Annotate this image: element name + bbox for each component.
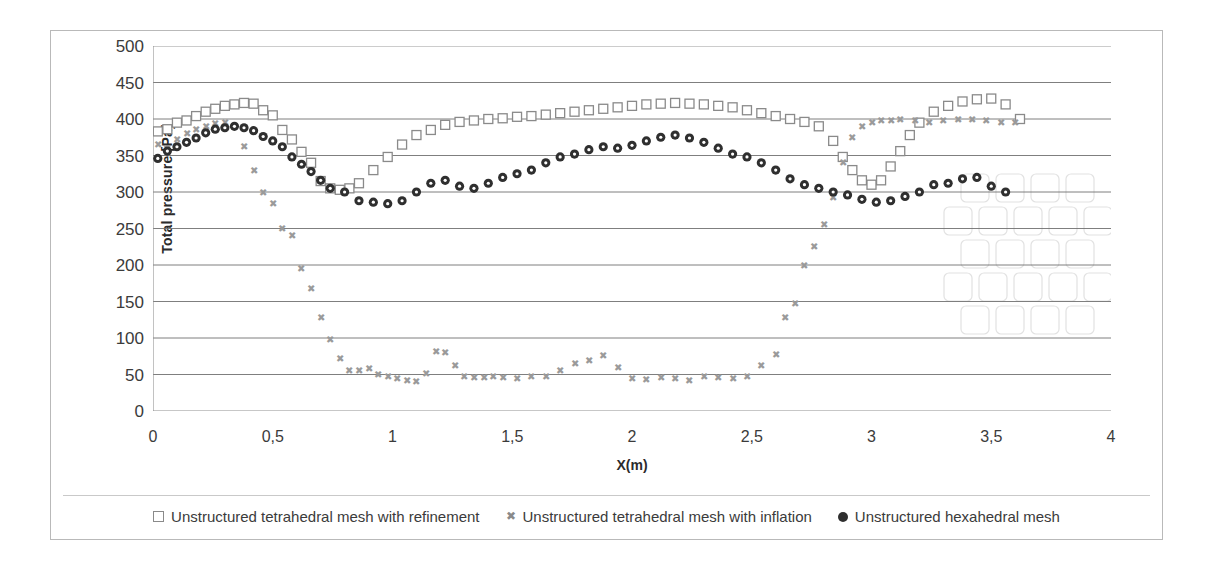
svg-text:✖: ✖ [513,373,521,384]
svg-text:✖: ✖ [968,114,976,125]
svg-text:✖: ✖ [489,371,497,382]
svg-text:✖: ✖ [729,373,737,384]
svg-text:✖: ✖ [800,260,808,271]
x-tick-label: 1 [363,428,423,446]
svg-text:✖: ✖ [412,376,420,387]
legend-item-hexahedral[interactable]: Unstructured hexahedral mesh [838,508,1060,525]
svg-text:✖: ✖ [336,353,344,364]
plot-area: Total pressure [Pa] X(m) ✖✖✖✖✖✖✖✖✖✖✖✖✖✖✖… [153,46,1111,411]
svg-text:✖: ✖ [317,312,325,323]
x-tick-label: 0 [123,428,183,446]
y-tick-label: 250 [84,220,144,237]
svg-text:✖: ✖ [714,372,722,383]
chart-figure-frame: Total pressure [Pa] X(m) ✖✖✖✖✖✖✖✖✖✖✖✖✖✖✖… [50,30,1163,540]
svg-text:✖: ✖ [470,372,478,383]
svg-text:✖: ✖ [240,141,248,152]
svg-text:✖: ✖ [810,241,818,252]
svg-text:✖: ✖ [858,121,866,132]
svg-text:✖: ✖ [192,124,200,135]
svg-text:✖: ✖ [527,371,535,382]
svg-text:✖: ✖ [441,347,449,358]
chart-legend: Unstructured tetrahedral mesh with refin… [63,495,1150,525]
svg-text:✖: ✖ [657,372,665,383]
svg-text:✖: ✖ [839,157,847,168]
svg-text:✖: ✖ [326,334,334,345]
y-tick-label: 400 [84,111,144,128]
x-tick-label: 2 [602,428,662,446]
svg-text:✖: ✖ [403,375,411,386]
y-tick-label: 450 [84,74,144,91]
svg-text:✖: ✖ [685,375,693,386]
svg-text:✖: ✖ [432,346,440,357]
svg-text:✖: ✖ [757,360,765,371]
y-tick-label: 300 [84,184,144,201]
svg-text:✖: ✖ [480,372,488,383]
svg-text:✖: ✖ [781,312,789,323]
svg-text:✖: ✖ [269,198,277,209]
legend-item-inflation[interactable]: ✖ Unstructured tetrahedral mesh with inf… [506,508,812,525]
svg-text:✖: ✖ [599,350,607,361]
svg-text:✖: ✖ [954,114,962,125]
open-square-icon [153,511,164,522]
svg-text:✖: ✖ [911,115,919,126]
svg-text:✖: ✖ [556,365,564,376]
svg-text:✖: ✖ [671,373,679,384]
svg-text:✖: ✖ [791,298,799,309]
x-tick-label: 4 [1081,428,1141,446]
svg-text:✖: ✖ [183,128,191,139]
svg-text:✖: ✖ [820,219,828,230]
svg-text:✖: ✖ [1011,117,1019,128]
svg-text:✖: ✖ [700,371,708,382]
svg-text:✖: ✖ [542,371,550,382]
x-tick-label: 3,5 [961,428,1021,446]
series-1: ✖✖✖✖✖✖✖✖✖✖✖✖✖✖✖✖✖✖✖✖✖✖✖✖✖✖✖✖✖✖✖✖✖✖✖✖✖✖✖✖… [154,114,1019,388]
svg-text:✖: ✖ [297,263,305,274]
svg-text:✖: ✖ [614,362,622,373]
svg-text:✖: ✖ [250,165,258,176]
x-tick-label: 3 [842,428,902,446]
svg-text:✖: ✖ [365,363,373,374]
svg-text:✖: ✖ [278,223,286,234]
svg-text:✖: ✖ [743,371,751,382]
svg-text:✖: ✖ [772,349,780,360]
svg-text:✖: ✖ [925,117,933,128]
svg-text:✖: ✖ [307,283,315,294]
svg-text:✖: ✖ [571,358,579,369]
svg-text:✖: ✖ [982,115,990,126]
mesh-grid-watermark [944,174,1111,334]
svg-text:✖: ✖ [585,355,593,366]
legend-label-inflation: Unstructured tetrahedral mesh with infla… [523,508,812,525]
svg-text:✖: ✖ [868,117,876,128]
svg-text:✖: ✖ [642,374,650,385]
x-tick-label: 0,5 [243,428,303,446]
svg-text:✖: ✖ [848,132,856,143]
legend-label-refinement: Unstructured tetrahedral mesh with refin… [171,508,479,525]
svg-text:✖: ✖ [896,114,904,125]
x-axis-title: X(m) [153,457,1111,473]
svg-text:✖: ✖ [288,230,296,241]
svg-text:✖: ✖ [384,371,392,382]
y-tick-label: 50 [84,366,144,383]
x-tick-label: 2,5 [722,428,782,446]
svg-text:✖: ✖ [154,139,162,150]
svg-text:✖: ✖ [355,365,363,376]
y-tick-label: 0 [84,403,144,420]
svg-text:✖: ✖ [259,187,267,198]
svg-text:✖: ✖ [887,115,895,126]
svg-text:✖: ✖ [451,360,459,371]
svg-text:✖: ✖ [877,115,885,126]
legend-item-refinement[interactable]: Unstructured tetrahedral mesh with refin… [153,508,479,525]
svg-text:✖: ✖ [460,371,468,382]
svg-text:✖: ✖ [422,368,430,379]
x-tick-label: 1,5 [482,428,542,446]
filled-circle-icon [838,512,848,522]
svg-text:✖: ✖ [393,373,401,384]
svg-text:✖: ✖ [345,365,353,376]
y-tick-label: 150 [84,293,144,310]
x-marker-icon: ✖ [506,510,516,522]
svg-text:✖: ✖ [628,373,636,384]
y-tick-label: 100 [84,330,144,347]
svg-text:✖: ✖ [499,372,507,383]
legend-label-hexahedral: Unstructured hexahedral mesh [855,508,1060,525]
svg-text:✖: ✖ [939,115,947,126]
